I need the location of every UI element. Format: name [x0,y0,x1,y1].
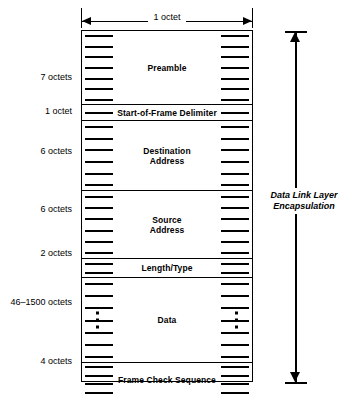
size-label-sfd: 1 octet [45,106,72,116]
octet-tick [221,138,249,140]
octet-tick [221,356,249,358]
frame-field-label-length-type: Length/Type [82,263,252,273]
arrow-up-icon [290,32,300,42]
octet-tick [85,356,113,358]
octet-width-dimension: 1 octet [81,8,253,28]
frame-field-label-frame-check-sequence: Frame Check Sequence [82,375,252,385]
encapsulation-label: Data Link Layer Encapsulation [266,188,342,214]
size-label-frame-check-sequence: 4 octets [40,356,72,366]
octet-tick [85,332,113,334]
octet-tick [85,184,113,186]
octet-tick [221,283,249,285]
octet-tick [221,184,249,186]
octet-tick [85,196,113,198]
arrow-down-icon [290,372,300,382]
octet-tick [221,295,249,297]
octet-tick [221,173,249,175]
octet-tick [221,56,249,58]
octet-tick [85,46,113,48]
octet-tick [221,207,249,209]
frame-field-label-destination-address: Destination Address [82,146,252,166]
octet-tick [85,344,113,346]
size-label-preamble: 7 octets [40,72,72,82]
octet-tick [85,99,113,101]
octet-tick [221,252,249,254]
frame-field-length-type: Length/Type [82,259,252,278]
octet-tick [221,78,249,80]
frame-field-label-data: Data [82,315,252,325]
frame-field-label-source-address: Source Address [82,215,252,235]
frame-field-label-start-of-frame-delimiter: Start-of-Frame Delimiter [82,108,252,118]
octet-tick [85,88,113,90]
size-label-data: 46–1500 octets [10,297,72,307]
size-label-destination-address: 6 octets [40,146,72,156]
frame-field-start-of-frame-delimiter: Start-of-Frame Delimiter [82,105,252,121]
octet-tick [85,138,113,140]
frame-field-label-preamble: Preamble [82,63,252,73]
octet-tick [221,35,249,37]
ellipsis-dot [96,326,99,329]
octet-tick [85,241,113,243]
octet-width-text: 1 octet [148,12,185,22]
octet-tick [85,173,113,175]
octet-tick [85,307,113,309]
octet-width-label: 1 octet [81,13,253,22]
frame-box: PreambleStart-of-Frame DelimiterDestinat… [81,30,253,382]
octet-tick [85,126,113,128]
size-label-length-type: 2 octets [40,248,72,258]
octet-tick [85,78,113,80]
octet-tick [221,88,249,90]
encapsulation-bracket: Data Link Layer Encapsulation [272,28,336,388]
octet-tick [221,392,249,394]
frame-field-preamble: Preamble [82,31,252,105]
octet-tick [85,366,113,368]
octet-tick [221,344,249,346]
frame-field-frame-check-sequence: Frame Check Sequence [82,363,252,397]
octet-tick [221,366,249,368]
octet-tick [85,392,113,394]
octet-tick [221,196,249,198]
octet-tick [85,35,113,37]
octet-tick [85,295,113,297]
octet-tick [85,283,113,285]
octet-tick [221,46,249,48]
frame-field-source-address: Source Address [82,191,252,259]
frame-field-destination-address: Destination Address [82,121,252,191]
octet-tick [221,241,249,243]
octet-tick [85,252,113,254]
octet-tick [221,126,249,128]
octet-tick [221,332,249,334]
octet-tick [221,99,249,101]
frame-field-data: Data [82,278,252,363]
octet-tick [85,56,113,58]
octet-tick [221,307,249,309]
octet-tick [85,207,113,209]
size-label-source-address: 6 octets [40,204,72,214]
ellipsis-dot [235,326,238,329]
